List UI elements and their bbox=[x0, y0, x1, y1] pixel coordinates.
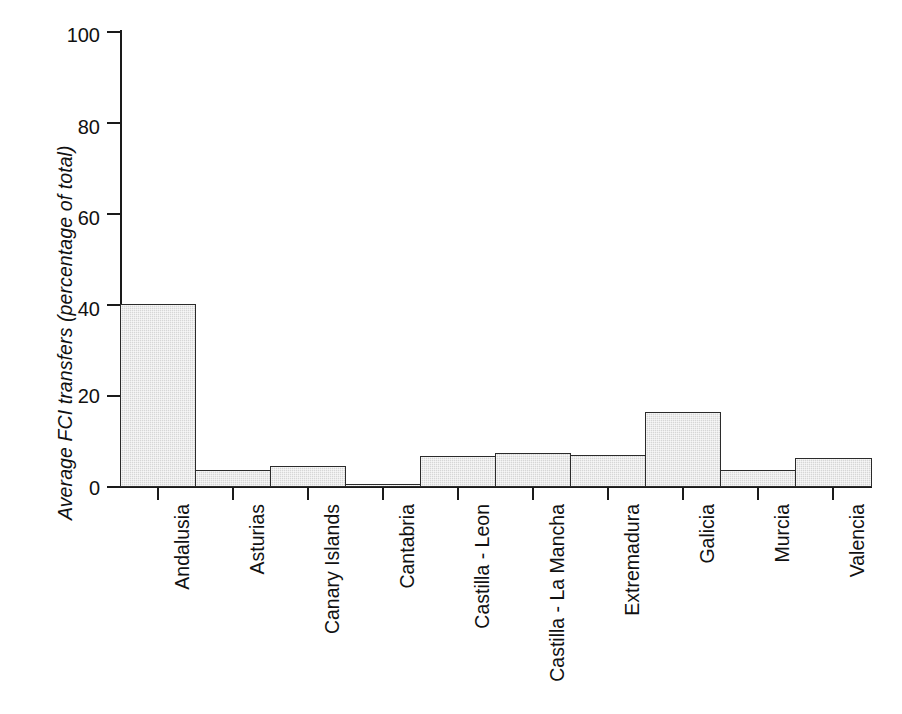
x-axis-label-castilla-leon-text: Castilla - Leon bbox=[472, 504, 492, 714]
x-axis-label-galicia: Galicia bbox=[690, 274, 710, 504]
x-axis-label-cantabria: Cantabria bbox=[390, 274, 410, 504]
x-axis-label-castilla-la-mancha-text: Castilla - La Mancha bbox=[547, 504, 567, 714]
x-axis-label-extremadura: Extremadura bbox=[615, 274, 635, 504]
y-tick-mark-80 bbox=[107, 122, 120, 124]
y-tick-label-20-wrap: 20 bbox=[48, 386, 100, 406]
y-tick-mark-100 bbox=[107, 31, 120, 33]
x-tick-mark-4 bbox=[457, 488, 459, 500]
y-tick-mark-60 bbox=[107, 213, 120, 215]
x-tick-mark-2 bbox=[307, 488, 309, 500]
x-axis-label-castilla-leon: Castilla - Leon bbox=[465, 274, 485, 504]
x-axis-label-galicia-text: Galicia bbox=[697, 504, 717, 714]
x-axis-label-andalusia: Andalusia bbox=[165, 274, 185, 504]
x-tick-mark-1 bbox=[232, 488, 234, 500]
x-tick-mark-8 bbox=[757, 488, 759, 500]
x-tick-mark-9 bbox=[832, 488, 834, 500]
y-tick-label-100: 100 bbox=[54, 25, 100, 45]
x-tick-mark-5 bbox=[532, 488, 534, 500]
x-tick-mark-3 bbox=[382, 488, 384, 500]
bar-valencia bbox=[795, 458, 872, 487]
y-tick-label-80-wrap: 80 bbox=[48, 117, 100, 137]
x-tick-mark-0 bbox=[157, 488, 159, 500]
y-tick-label-0-wrap: 0 bbox=[48, 478, 100, 498]
x-tick-mark-7 bbox=[682, 488, 684, 500]
y-tick-label-80: 80 bbox=[54, 117, 100, 137]
y-tick-label-40: 40 bbox=[54, 299, 100, 319]
y-axis-title: Average FCI transfers (percentage of tot… bbox=[44, 20, 86, 520]
x-axis-label-valencia: Valencia bbox=[840, 274, 860, 504]
y-tick-label-20: 20 bbox=[54, 386, 100, 406]
y-tick-label-100-wrap: 100 bbox=[48, 25, 100, 45]
x-axis-label-valencia-text: Valencia bbox=[847, 504, 867, 714]
bar-chart-figure: Average FCI transfers (percentage of tot… bbox=[0, 0, 902, 714]
x-axis-label-murcia-text: Murcia bbox=[772, 504, 792, 714]
x-axis-label-asturias-text: Asturias bbox=[247, 504, 267, 714]
x-axis-label-canary-islands-text: Canary Islands bbox=[322, 504, 342, 714]
x-axis-label-cantabria-text: Cantabria bbox=[397, 504, 417, 714]
x-axis-label-asturias: Asturias bbox=[240, 274, 260, 504]
y-tick-mark-0 bbox=[107, 486, 120, 488]
x-axis-label-murcia: Murcia bbox=[765, 274, 785, 504]
y-tick-label-40-wrap: 40 bbox=[48, 299, 100, 319]
x-axis-label-canary-islands: Canary Islands bbox=[315, 274, 335, 504]
x-tick-mark-6 bbox=[607, 488, 609, 500]
y-tick-label-60: 60 bbox=[54, 208, 100, 228]
y-tick-label-0: 0 bbox=[54, 478, 100, 498]
x-axis-label-andalusia-text: Andalusia bbox=[172, 504, 192, 714]
y-tick-label-60-wrap: 60 bbox=[48, 208, 100, 228]
y-tick-mark-20 bbox=[107, 395, 120, 397]
x-axis-label-castilla-la-mancha: Castilla - La Mancha bbox=[540, 274, 560, 504]
x-axis-label-extremadura-text: Extremadura bbox=[622, 504, 642, 714]
y-tick-mark-40 bbox=[107, 304, 120, 306]
bars-layer bbox=[120, 30, 872, 487]
